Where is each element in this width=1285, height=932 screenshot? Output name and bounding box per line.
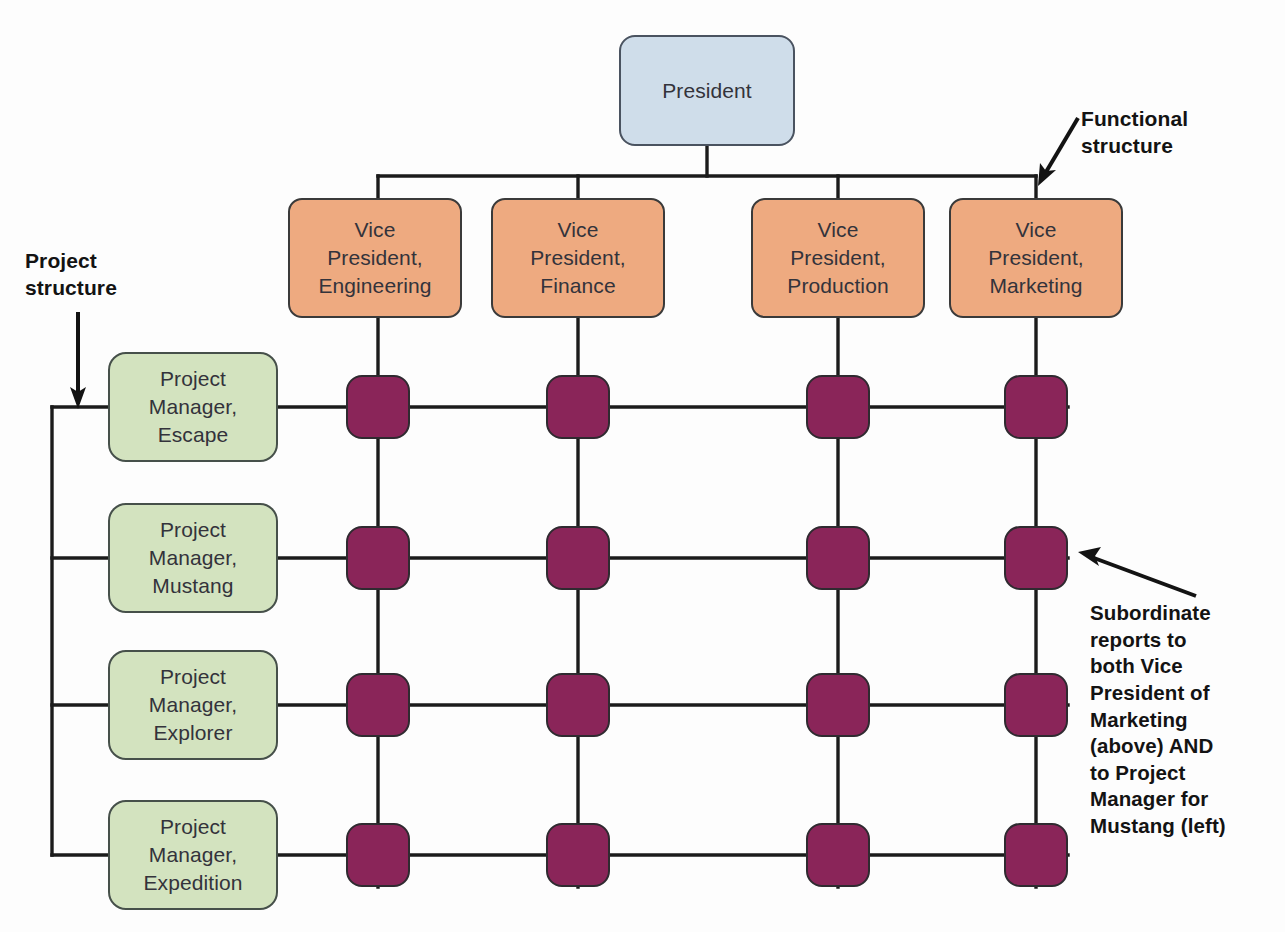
matrix-cell-engineering-escape[interactable] <box>346 375 410 439</box>
matrix-cell-finance-explorer[interactable] <box>546 673 610 737</box>
matrix-cell-finance-expedition[interactable] <box>546 823 610 887</box>
vp-production-line1: Vice <box>818 218 859 241</box>
pm-escape-line1: Project <box>160 367 226 390</box>
pm-explorer-line3: Explorer <box>153 721 232 744</box>
matrix-cell-engineering-explorer[interactable] <box>346 673 410 737</box>
node-vp-production[interactable]: VicePresident,Production <box>751 198 925 318</box>
pm-explorer-line2: Manager, <box>149 693 237 716</box>
vp-production-line3: Production <box>787 274 888 297</box>
callout-subordinate-line5: Marketing <box>1090 708 1188 731</box>
callout-subordinate-line9: Mustang (left) <box>1090 814 1226 837</box>
pm-mustang-line3: Mustang <box>152 574 233 597</box>
node-vp-finance[interactable]: VicePresident,Finance <box>491 198 665 318</box>
node-vp-marketing[interactable]: VicePresident,Marketing <box>949 198 1123 318</box>
callout-project-structure: Project structure <box>25 248 175 302</box>
node-president[interactable]: President <box>619 35 795 146</box>
matrix-cell-marketing-explorer[interactable] <box>1004 673 1068 737</box>
vp-marketing-line3: Marketing <box>989 274 1082 297</box>
callout-subordinate-line6: (above) AND <box>1090 734 1213 757</box>
callout-subordinate-line3: both Vice <box>1090 654 1183 677</box>
callout-subordinate-line1: Subordinate <box>1090 601 1211 624</box>
vp-production-line2: President, <box>790 246 886 269</box>
matrix-cell-marketing-expedition[interactable] <box>1004 823 1068 887</box>
callout-subordinate-line4: President of <box>1090 681 1210 704</box>
node-pm-explorer[interactable]: ProjectManager,Explorer <box>108 650 278 760</box>
callout-functional-structure: Functional structure <box>1081 106 1271 160</box>
org-chart-diagram: President VicePresident,Engineering Vice… <box>0 0 1285 932</box>
pm-expedition-line1: Project <box>160 815 226 838</box>
callout-project-line2: structure <box>25 276 117 299</box>
pm-escape-line3: Escape <box>158 423 229 446</box>
pm-mustang-line1: Project <box>160 518 226 541</box>
matrix-cell-marketing-escape[interactable] <box>1004 375 1068 439</box>
vp-finance-line1: Vice <box>558 218 599 241</box>
vp-finance-line2: President, <box>530 246 626 269</box>
matrix-cell-production-escape[interactable] <box>806 375 870 439</box>
matrix-cell-engineering-expedition[interactable] <box>346 823 410 887</box>
vp-marketing-line1: Vice <box>1016 218 1057 241</box>
pm-mustang-line2: Manager, <box>149 546 237 569</box>
pm-escape-line2: Manager, <box>149 395 237 418</box>
matrix-cell-finance-mustang[interactable] <box>546 526 610 590</box>
matrix-cell-finance-escape[interactable] <box>546 375 610 439</box>
callout-functional-line2: structure <box>1081 134 1173 157</box>
node-pm-expedition[interactable]: ProjectManager,Expedition <box>108 800 278 910</box>
matrix-cell-production-explorer[interactable] <box>806 673 870 737</box>
node-pm-escape[interactable]: ProjectManager,Escape <box>108 352 278 462</box>
project-structure-arrow <box>70 312 86 409</box>
matrix-cell-production-mustang[interactable] <box>806 526 870 590</box>
pm-expedition-line3: Expedition <box>143 871 242 894</box>
callout-project-line1: Project <box>25 249 97 272</box>
vp-marketing-line2: President, <box>988 246 1084 269</box>
vp-engineering-line2: President, <box>327 246 423 269</box>
matrix-cell-production-expedition[interactable] <box>806 823 870 887</box>
pm-expedition-line2: Manager, <box>149 843 237 866</box>
functional-structure-arrow <box>1038 118 1078 186</box>
callout-functional-line1: Functional <box>1081 107 1188 130</box>
callout-subordinate-line7: to Project <box>1090 761 1186 784</box>
callout-subordinate-line8: Manager for <box>1090 787 1208 810</box>
matrix-cell-marketing-mustang[interactable] <box>1004 526 1068 590</box>
callout-subordinate-line2: reports to <box>1090 628 1187 651</box>
callout-subordinate-dual-reporting: Subordinate reports to both Vice Preside… <box>1090 600 1278 840</box>
pm-explorer-line1: Project <box>160 665 226 688</box>
matrix-cell-engineering-mustang[interactable] <box>346 526 410 590</box>
subordinate-callout-arrow <box>1078 547 1196 596</box>
vp-engineering-line1: Vice <box>355 218 396 241</box>
node-vp-engineering[interactable]: VicePresident,Engineering <box>288 198 462 318</box>
node-president-label: President <box>662 77 752 105</box>
vp-finance-line3: Finance <box>540 274 615 297</box>
node-pm-mustang[interactable]: ProjectManager,Mustang <box>108 503 278 613</box>
vp-engineering-line3: Engineering <box>318 274 431 297</box>
